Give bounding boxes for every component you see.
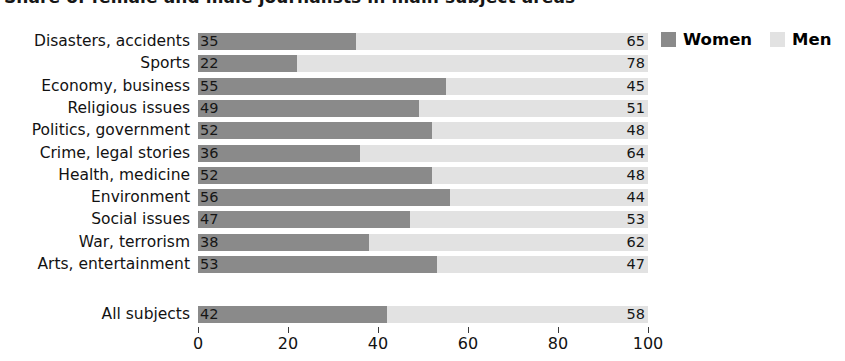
category-label-all-subjects: All subjects [0,306,190,323]
chart-row: Religious issues4951 [0,100,845,117]
bar-segment-men-sports [297,55,648,72]
category-label-health-medicine: Health, medicine [0,167,190,184]
bar-segment-women-social-issues [198,211,410,228]
bar-value-men-all-subjects: 58 [627,306,645,323]
category-label-environment: Environment [0,189,190,206]
bar-track-health-medicine: 5248 [198,167,648,184]
legend-label-women: Women [683,30,752,49]
bar-segment-women-crime-legal-stories [198,145,360,162]
x-axis-tick-20 [288,327,289,333]
bar-value-men-disasters-accidents: 65 [627,33,645,50]
bar-segment-men-social-issues [410,211,649,228]
bar-track-politics-government: 5248 [198,122,648,139]
bar-track-crime-legal-stories: 3664 [198,145,648,162]
bar-value-women-sports: 22 [200,55,218,72]
x-axis-tick-80 [558,327,559,333]
bar-value-women-all-subjects: 42 [200,306,218,323]
bar-track-economy-business: 5545 [198,78,648,95]
x-axis-label-20: 20 [258,334,318,353]
bar-segment-men-politics-government [432,122,648,139]
bar-segment-women-arts-entertainment [198,256,437,273]
category-label-sports: Sports [0,55,190,72]
bar-track-war-terrorism: 3862 [198,234,648,251]
chart-row: Health, medicine5248 [0,167,845,184]
category-label-social-issues: Social issues [0,211,190,228]
bar-segment-men-health-medicine [432,167,648,184]
bar-segment-men-all-subjects [387,306,648,323]
bar-track-disasters-accidents: 3565 [198,33,648,50]
chart-row: Social issues4753 [0,211,845,228]
x-axis-label-40: 40 [348,334,408,353]
legend-item-men[interactable]: Men [770,30,831,49]
chart-row: Sports2278 [0,55,845,72]
bar-value-men-arts-entertainment: 47 [627,256,645,273]
bar-value-women-politics-government: 52 [200,122,218,139]
bar-segment-women-health-medicine [198,167,432,184]
bar-value-women-war-terrorism: 38 [200,234,218,251]
bar-value-women-crime-legal-stories: 36 [200,145,218,162]
bar-track-social-issues: 4753 [198,211,648,228]
bar-value-men-politics-government: 48 [627,122,645,139]
bar-value-women-disasters-accidents: 35 [200,33,218,50]
bar-value-women-health-medicine: 52 [200,167,218,184]
x-axis-label-80: 80 [528,334,588,353]
category-label-politics-government: Politics, government [0,122,190,139]
chart-row-all-subjects: All subjects4258 [0,306,845,323]
bar-segment-women-all-subjects [198,306,387,323]
category-label-economy-business: Economy, business [0,78,190,95]
x-axis-tick-40 [378,327,379,333]
bar-segment-women-religious-issues [198,100,419,117]
bar-value-women-arts-entertainment: 53 [200,256,218,273]
chart-row: Environment5644 [0,189,845,206]
x-axis-label-0: 0 [168,334,228,353]
bar-segment-women-politics-government [198,122,432,139]
legend-swatch-women [661,32,676,47]
legend-swatch-men [770,32,785,47]
bar-segment-men-disasters-accidents [356,33,649,50]
bar-track-sports: 2278 [198,55,648,72]
x-axis: 020406080100 [198,327,648,361]
bar-segment-men-economy-business [446,78,649,95]
bar-track-religious-issues: 4951 [198,100,648,117]
bar-segment-men-war-terrorism [369,234,648,251]
bar-track-all-subjects: 4258 [198,306,648,323]
bar-value-women-economy-business: 55 [200,78,218,95]
bar-value-men-religious-issues: 51 [627,100,645,117]
category-label-disasters-accidents: Disasters, accidents [0,33,190,50]
category-label-religious-issues: Religious issues [0,100,190,117]
chart-row: Arts, entertainment5347 [0,256,845,273]
bar-segment-women-war-terrorism [198,234,369,251]
bar-value-men-war-terrorism: 62 [627,234,645,251]
chart-row: War, terrorism3862 [0,234,845,251]
chart-row: Politics, government5248 [0,122,845,139]
category-label-arts-entertainment: Arts, entertainment [0,256,190,273]
bar-segment-women-disasters-accidents [198,33,356,50]
bar-segment-men-arts-entertainment [437,256,649,273]
category-label-war-terrorism: War, terrorism [0,234,190,251]
bar-segment-men-environment [450,189,648,206]
chart-row: Economy, business5545 [0,78,845,95]
x-axis-tick-60 [468,327,469,333]
bar-value-men-social-issues: 53 [627,211,645,228]
bar-segment-men-religious-issues [419,100,649,117]
bar-value-men-environment: 44 [627,189,645,206]
legend-item-women[interactable]: Women [661,30,752,49]
bar-value-men-health-medicine: 48 [627,167,645,184]
bar-value-women-social-issues: 47 [200,211,218,228]
bar-value-men-crime-legal-stories: 64 [627,145,645,162]
bar-value-men-sports: 78 [627,55,645,72]
legend-label-men: Men [792,30,831,49]
bar-value-women-environment: 56 [200,189,218,206]
x-axis-tick-100 [648,327,649,333]
bar-track-arts-entertainment: 5347 [198,256,648,273]
bar-track-environment: 5644 [198,189,648,206]
category-label-crime-legal-stories: Crime, legal stories [0,145,190,162]
bar-value-women-religious-issues: 49 [200,100,218,117]
x-axis-label-100: 100 [618,334,678,353]
chart-legend: WomenMen [661,29,845,49]
bar-segment-men-crime-legal-stories [360,145,648,162]
x-axis-label-60: 60 [438,334,498,353]
bar-value-men-economy-business: 45 [627,78,645,95]
bar-segment-women-economy-business [198,78,446,95]
chart-row: Crime, legal stories3664 [0,145,845,162]
